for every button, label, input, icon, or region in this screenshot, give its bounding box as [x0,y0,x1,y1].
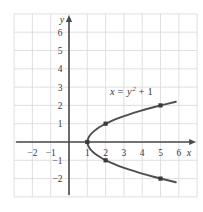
y-tick-label: 5 [58,46,63,56]
equation-plus: + [139,86,145,97]
parabola-graph-figure: −2−1123456654321−1−2 xy x=y2+1 [0,0,203,212]
x-tick-label: 3 [122,148,127,158]
coordinate-plane: −2−1123456654321−1−2 xy x=y2+1 [0,0,203,212]
y-tick-label: 3 [58,83,63,93]
y-tick-label: 6 [58,28,63,38]
equation-constant: 1 [148,86,153,97]
y-axis-label: y [59,14,65,25]
x-tick-label: 5 [158,148,163,158]
equation-base: y [126,86,132,97]
y-tick-label: 1 [58,119,63,129]
x-tick-label: 2 [103,148,108,158]
y-tick-label: 2 [58,101,63,111]
x-tick-label: 6 [176,148,181,158]
x-axis-label: x [186,147,192,158]
data-point-marker [158,177,162,181]
data-point-marker [104,158,108,162]
data-point-marker [85,140,89,144]
equation-exponent: 2 [133,85,137,92]
data-point-marker [104,122,108,126]
y-tick-label: 4 [58,64,63,74]
figure-background [0,0,203,212]
equation-lhs: x [109,86,115,97]
x-tick-label: −2 [27,148,37,158]
y-tick-label: −2 [52,174,62,184]
x-tick-label: 4 [140,148,145,158]
y-tick-label: −1 [52,156,62,166]
equation-equals: = [118,86,124,97]
data-point-marker [158,103,162,107]
